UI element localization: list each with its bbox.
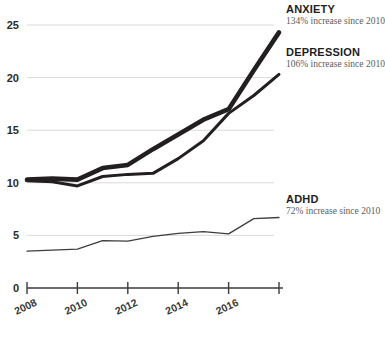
- y-axis-tick-labels: 0510152025: [7, 19, 19, 294]
- y-tick-label-25: 25: [7, 19, 19, 31]
- legend-subtitle-anxiety: 134% increase since 2010: [286, 16, 385, 27]
- y-tick-label-5: 5: [13, 229, 19, 241]
- y-tick-label-10: 10: [7, 177, 19, 189]
- legend-title-adhd: ADHD: [286, 193, 380, 205]
- legend-item-adhd: ADHD 72% increase since 2010: [286, 193, 380, 217]
- legend-title-depression: DEPRESSION: [286, 46, 385, 58]
- x-axis: [27, 282, 283, 294]
- legend-item-depression: DEPRESSION 106% increase since 2010: [286, 46, 385, 70]
- x-tick-label-2008: 2008: [12, 296, 38, 317]
- legend-item-anxiety: ANXIETY 134% increase since 2010: [286, 3, 385, 27]
- legend-title-anxiety: ANXIETY: [286, 3, 385, 15]
- gridlines: [27, 25, 274, 235]
- y-tick-label-0: 0: [13, 282, 19, 294]
- x-tick-label-2012: 2012: [113, 296, 139, 317]
- data-series: [27, 32, 279, 251]
- legend-subtitle-adhd: 72% increase since 2010: [286, 206, 380, 217]
- x-tick-label-2010: 2010: [63, 296, 89, 317]
- series-line-adhd: [27, 218, 279, 252]
- x-tick-label-2016: 2016: [214, 296, 240, 317]
- x-tick-label-2014: 2014: [163, 296, 189, 317]
- legend-subtitle-depression: 106% increase since 2010: [286, 59, 385, 70]
- y-tick-label-15: 15: [7, 124, 19, 136]
- y-tick-label-20: 20: [7, 72, 19, 84]
- x-axis-tick-labels: 20082010201220142016: [12, 296, 240, 317]
